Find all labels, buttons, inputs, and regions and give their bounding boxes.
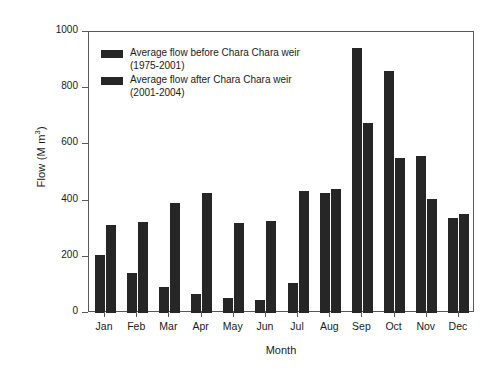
x-axis-title: Month [88,344,474,356]
bar-jul-after [299,191,309,313]
x-axis-tick-mark [458,312,459,317]
legend-label-after-line1: Average flow after Chara Chara weir [130,74,292,87]
x-axis-tick-mark [201,312,202,317]
y-axis-tick-mark [82,312,88,313]
bar-jul-before [288,283,298,313]
legend-label-after: Average flow after Chara Chara weir (200… [130,74,292,99]
legend-label-before-line1: Average flow before Chara Chara weir [130,47,300,60]
bar-oct-before [384,71,394,313]
bar-nov-after [427,199,437,313]
legend-swatch-after [101,77,123,85]
bar-sep-after [363,123,373,313]
bar-jun-before [255,300,265,313]
y-axis-title-tail: ) [35,126,47,130]
legend: Average flow before Chara Chara weir (19… [101,47,331,101]
y-axis-tick-label: 0 [40,305,78,316]
x-axis-tick-mark [361,312,362,317]
bar-jun-after [266,221,276,313]
y-axis-tick-label: 600 [40,136,78,147]
bar-sep-before [352,48,362,313]
bar-dec-before [448,218,458,313]
legend-item-after: Average flow after Chara Chara weir (200… [101,74,331,99]
x-axis-tick-mark [265,312,266,317]
y-axis-tick-label: 200 [40,249,78,260]
bar-feb-before [127,273,137,313]
legend-label-after-line2: (2001-2004) [130,87,292,100]
y-axis-title-exponent: 3 [33,130,42,134]
x-axis-tick-mark [104,312,105,317]
bar-apr-after [202,193,212,313]
bar-apr-before [191,294,201,313]
bar-mar-before [159,287,169,313]
bar-mar-after [170,203,180,313]
y-axis-tick-label: 800 [40,80,78,91]
legend-swatch-before [101,50,123,58]
bar-oct-after [395,158,405,313]
bar-aug-before [320,193,330,313]
x-axis-tick-mark [329,312,330,317]
x-axis-tick-mark [233,312,234,317]
bar-dec-after [459,214,469,313]
x-axis-tick-mark [426,312,427,317]
bar-jan-before [95,255,105,313]
x-axis-tick-label: Dec [438,320,478,332]
plot-area: Average flow before Chara Chara weir (19… [88,31,474,312]
bar-may-before [223,298,233,313]
bar-feb-after [138,222,148,313]
bar-nov-before [416,156,426,313]
x-axis-tick-mark [394,312,395,317]
x-axis-tick-mark [136,312,137,317]
x-axis-tick-mark [297,312,298,317]
chart-figure: Flow (M m3) Month 02004006008001000 Aver… [0,0,501,372]
y-axis-tick-label: 1000 [40,24,78,35]
x-axis-tick-mark [168,312,169,317]
legend-label-before: Average flow before Chara Chara weir (19… [130,47,300,72]
legend-label-before-line2: (1975-2001) [130,60,300,73]
bar-aug-after [331,189,341,313]
bar-jan-after [106,225,116,313]
legend-item-before: Average flow before Chara Chara weir (19… [101,47,331,72]
y-axis-tick-label: 400 [40,193,78,204]
y-axis-title: Flow (M m3) [33,77,47,237]
bar-may-after [234,223,244,313]
